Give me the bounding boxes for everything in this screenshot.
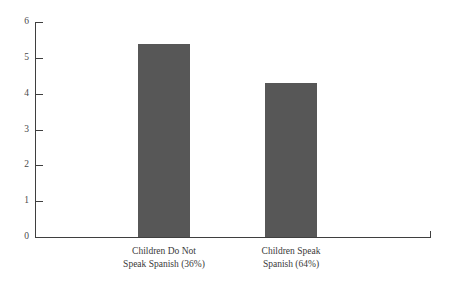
- bars-layer: [35, 22, 430, 237]
- y-axis-tick-label: 2: [5, 160, 29, 170]
- x-axis-category-label-line: Children Do Not: [94, 245, 234, 258]
- bar-chart: 0123456 Children Do NotSpeak Spanish (36…: [0, 0, 449, 288]
- x-axis-category-label: Children SpeakSpanish (64%): [221, 245, 361, 271]
- bar: [138, 44, 190, 238]
- x-axis-line: [35, 237, 431, 238]
- y-axis-tick-label: 6: [5, 17, 29, 27]
- bar: [265, 83, 317, 237]
- x-axis-end-tick: [430, 231, 431, 238]
- y-axis-tick-label: 4: [5, 89, 29, 99]
- y-axis-tick: [36, 237, 43, 238]
- y-axis-tick-label: 5: [5, 53, 29, 63]
- y-axis-tick-label: 0: [5, 232, 29, 242]
- x-axis-category-label: Children Do NotSpeak Spanish (36%): [94, 245, 234, 271]
- x-axis-category-label-line: Children Speak: [221, 245, 361, 258]
- x-axis-category-label-line: Spanish (64%): [221, 258, 361, 271]
- y-axis-tick-label: 3: [5, 125, 29, 135]
- y-axis-tick-label: 1: [5, 196, 29, 206]
- x-axis-category-label-line: Speak Spanish (36%): [94, 258, 234, 271]
